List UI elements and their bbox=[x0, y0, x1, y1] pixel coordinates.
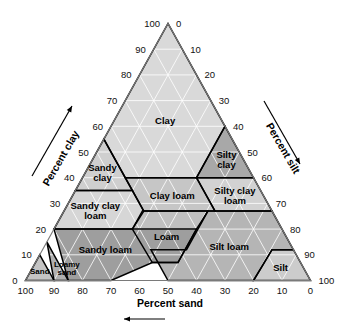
tick-silt-80: 80 bbox=[290, 224, 301, 235]
region-label-loam: Loam bbox=[154, 231, 179, 242]
tick-silt-90: 90 bbox=[304, 249, 315, 260]
axis-arrow-sand bbox=[124, 316, 165, 321]
region-label-clay: Clay bbox=[155, 115, 176, 126]
region-label-sandy-clay-loam: loam bbox=[84, 210, 106, 221]
tick-clay-60: 60 bbox=[92, 121, 103, 132]
region-label-loamy-sand: sand bbox=[57, 268, 76, 277]
tick-clay-50: 50 bbox=[78, 147, 89, 158]
tick-sand-30: 30 bbox=[220, 285, 231, 296]
region-label-silt-loam: Silt loam bbox=[209, 241, 249, 252]
region-label-sand: Sand bbox=[30, 267, 50, 276]
tick-silt-50: 50 bbox=[247, 147, 258, 158]
tick-sand-0: 0 bbox=[308, 285, 313, 296]
axis-title-silt: Percent silt bbox=[264, 120, 303, 175]
tick-silt-20: 20 bbox=[205, 69, 216, 80]
soil-texture-triangle-figure: ClaySiltyclaySandyclaySilty clayloamClay… bbox=[0, 0, 342, 331]
tick-sand-40: 40 bbox=[191, 285, 202, 296]
tick-clay-80: 80 bbox=[121, 69, 132, 80]
region-label-silt: Silt bbox=[273, 262, 289, 273]
axis-title-clay: Percent clay bbox=[40, 128, 81, 188]
tick-clay-40: 40 bbox=[64, 172, 75, 183]
tick-sand-70: 70 bbox=[106, 285, 117, 296]
region-label-silty-clay: clay bbox=[217, 159, 236, 170]
tick-silt-30: 30 bbox=[219, 95, 230, 106]
region-label-clay-loam: Clay loam bbox=[150, 190, 195, 201]
tick-clay-10: 10 bbox=[21, 249, 32, 260]
tick-sand-100: 100 bbox=[18, 285, 34, 296]
tick-sand-20: 20 bbox=[248, 285, 259, 296]
region-label-sandy-clay: clay bbox=[93, 172, 112, 183]
tick-silt-0: 0 bbox=[176, 18, 181, 29]
tick-silt-40: 40 bbox=[233, 121, 244, 132]
tick-clay-100: 100 bbox=[144, 18, 160, 29]
tick-sand-90: 90 bbox=[49, 285, 60, 296]
tick-silt-100: 100 bbox=[319, 275, 335, 286]
tick-clay-20: 20 bbox=[35, 224, 46, 235]
tick-clay-30: 30 bbox=[50, 198, 61, 209]
tick-sand-80: 80 bbox=[77, 285, 88, 296]
tick-sand-50: 50 bbox=[163, 285, 174, 296]
ternary-diagram: ClaySiltyclaySandyclaySilty clayloamClay… bbox=[0, 0, 342, 331]
tick-silt-10: 10 bbox=[190, 44, 201, 55]
tick-sand-60: 60 bbox=[134, 285, 145, 296]
tick-clay-90: 90 bbox=[135, 44, 146, 55]
tick-silt-60: 60 bbox=[262, 172, 273, 183]
axis-title-sand: Percent sand bbox=[137, 297, 203, 309]
region-label-sandy-loam: Sandy loam bbox=[79, 244, 132, 255]
tick-clay-70: 70 bbox=[107, 95, 118, 106]
tick-silt-70: 70 bbox=[276, 198, 287, 209]
tick-clay-0: 0 bbox=[12, 275, 17, 286]
region-label-silty-clay-loam: loam bbox=[224, 195, 246, 206]
tick-sand-10: 10 bbox=[277, 285, 288, 296]
